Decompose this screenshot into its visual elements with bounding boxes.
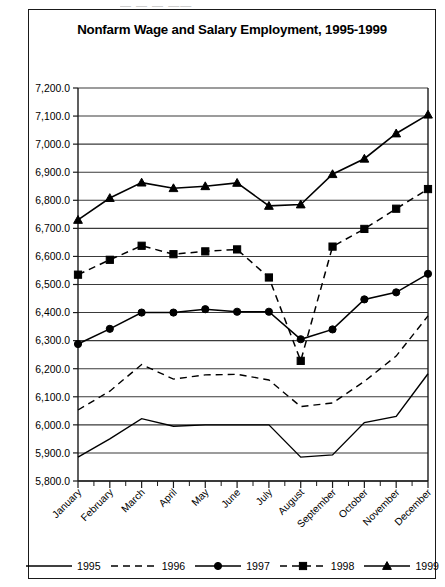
data-point-1997-March xyxy=(138,309,145,316)
y-axis-label: 7,100.0 xyxy=(35,111,70,122)
data-point-1999-September xyxy=(328,170,337,178)
data-point-1997-May xyxy=(202,306,209,313)
legend-label: 1999 xyxy=(415,560,439,572)
legend-marker-1997 xyxy=(215,562,222,569)
data-point-1997-January xyxy=(74,340,81,347)
legend-key-line-solid-circle xyxy=(194,560,242,572)
legend-key-line-dashed xyxy=(110,560,158,572)
legend-key-line-dashed-square xyxy=(279,560,327,572)
y-axis-label: 6,400.0 xyxy=(35,307,70,318)
data-point-1998-December xyxy=(424,185,431,192)
y-axis-label: 6,500.0 xyxy=(35,279,70,290)
legend-label: 1998 xyxy=(331,560,355,572)
legend-marker-1998 xyxy=(299,562,306,569)
y-axis-label: 6,800.0 xyxy=(35,195,70,206)
y-axis-label: 5,800.0 xyxy=(35,476,70,487)
x-axis-label: May xyxy=(189,486,211,508)
legend-item-1997[interactable]: 1997 xyxy=(194,560,270,572)
x-axis-label: July xyxy=(254,486,275,507)
legend-item-1999[interactable]: 1999 xyxy=(363,560,439,572)
series-line-1999 xyxy=(78,115,428,220)
y-axis-label: 7,000.0 xyxy=(35,139,70,150)
data-point-1998-July xyxy=(265,274,272,281)
data-point-1999-November xyxy=(392,129,401,137)
data-point-1998-August xyxy=(297,357,304,364)
y-axis-label: 7,200.0 xyxy=(35,83,70,94)
data-point-1997-April xyxy=(170,309,177,316)
data-point-1997-September xyxy=(329,326,336,333)
x-axis-label: April xyxy=(157,487,179,509)
data-point-1999-June xyxy=(233,178,242,186)
data-point-1998-April xyxy=(170,251,177,258)
legend-item-1996[interactable]: 1996 xyxy=(110,560,186,572)
data-point-1997-August xyxy=(297,336,304,343)
data-point-1999-January xyxy=(74,216,83,224)
data-point-1997-June xyxy=(233,308,240,315)
y-axis-label: 6,100.0 xyxy=(35,392,70,403)
data-point-1997-November xyxy=(393,289,400,296)
legend-label: 1995 xyxy=(77,560,101,572)
legend-item-1995[interactable]: 1995 xyxy=(25,560,101,572)
legend-item-1998[interactable]: 1998 xyxy=(279,560,355,572)
data-point-1998-September xyxy=(329,243,336,250)
y-axis-label: 6,900.0 xyxy=(35,167,70,178)
data-point-1998-January xyxy=(74,271,81,278)
x-axis-label: June xyxy=(219,486,243,510)
chart-svg: 7,200.07,100.07,000.06,900.06,800.06,700… xyxy=(0,0,445,587)
chart-legend: 19951996199719981999 xyxy=(28,553,436,579)
legend-key-line-solid-triangle xyxy=(363,560,411,572)
y-axis-label: 6,600.0 xyxy=(35,251,70,262)
y-axis-label: 5,900.0 xyxy=(35,448,70,459)
data-point-1997-December xyxy=(424,270,431,277)
series-line-1995 xyxy=(78,374,428,457)
legend-label: 1996 xyxy=(162,560,186,572)
legend-label: 1997 xyxy=(246,560,270,572)
data-point-1998-February xyxy=(106,256,113,263)
data-point-1998-June xyxy=(233,246,240,253)
x-axis-label: March xyxy=(119,487,147,515)
y-axis-label: 6,300.0 xyxy=(35,335,70,346)
x-axis-label: August xyxy=(276,487,306,517)
data-point-1997-February xyxy=(106,325,113,332)
data-point-1999-February xyxy=(105,194,114,202)
data-point-1998-May xyxy=(202,248,209,255)
x-axis-label: February xyxy=(79,486,116,523)
data-point-1997-July xyxy=(265,308,272,315)
series-line-1996 xyxy=(78,316,428,410)
chart-plot-area: 7,200.07,100.07,000.06,900.06,800.06,700… xyxy=(0,0,445,587)
y-axis-label: 6,200.0 xyxy=(35,364,70,375)
data-point-1999-December xyxy=(424,110,433,118)
y-axis-label: 6,000.0 xyxy=(35,420,70,431)
data-point-1998-November xyxy=(393,205,400,212)
y-axis-label: 6,700.0 xyxy=(35,223,70,234)
data-point-1997-October xyxy=(361,296,368,303)
series-line-1998 xyxy=(78,189,428,361)
data-point-1998-March xyxy=(138,242,145,249)
legend-key-line-solid xyxy=(25,560,73,572)
data-point-1998-October xyxy=(361,225,368,232)
data-point-1999-March xyxy=(137,178,146,186)
